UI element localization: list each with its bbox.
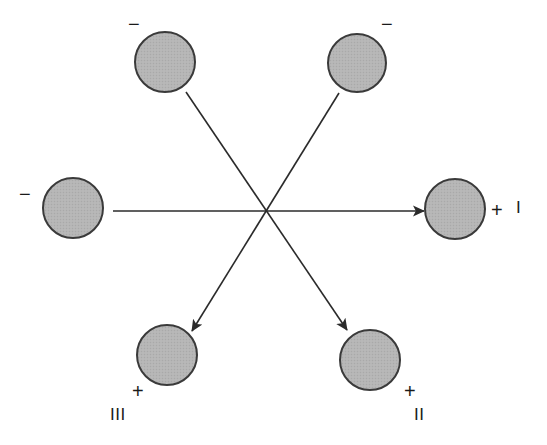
diagram-canvas: −−−+I+III+II <box>0 0 547 445</box>
node-circle-top-left <box>135 32 195 92</box>
node-circle-top-right <box>328 34 386 92</box>
node-circle-bottom-right <box>340 330 400 390</box>
axis-label-right: I <box>516 199 521 216</box>
arrows-layer <box>113 92 424 331</box>
polarity-label-bottom-left: + <box>132 381 144 401</box>
axis-label-bottom-left: III <box>110 406 126 423</box>
polarity-label-right: + <box>491 200 503 220</box>
arrow-axis-III <box>192 93 339 331</box>
polarity-label-left: − <box>19 184 31 204</box>
axis-label-bottom-right: II <box>414 406 424 423</box>
polarity-label-bottom-right: + <box>404 381 416 401</box>
polarity-label-top-right: − <box>381 14 393 34</box>
polarity-label-top-left: − <box>128 14 140 34</box>
diagram-figure <box>0 0 547 445</box>
node-circle-left <box>43 178 103 238</box>
node-circle-right <box>425 179 485 239</box>
node-circle-bottom-left <box>137 325 197 385</box>
